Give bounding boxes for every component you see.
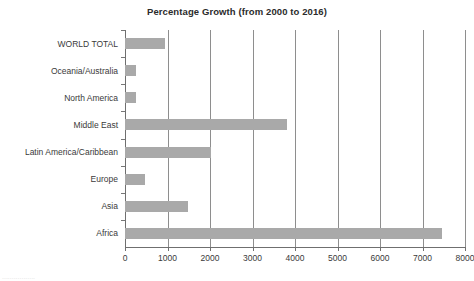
x-tick-label-2000: 2000 [201, 253, 220, 263]
bar-slot [125, 84, 465, 111]
bar-oceania-australia [125, 65, 136, 76]
chart-title: Percentage Growth (from 2000 to 2016) [0, 6, 474, 17]
gridline-8000 [465, 30, 466, 247]
x-tick-label-0: 0 [123, 253, 128, 263]
category-label-asia: Asia [101, 193, 118, 220]
plot-area [125, 30, 465, 247]
x-tick-label-3000: 3000 [243, 253, 262, 263]
bar-latin-america-caribbean [125, 147, 211, 158]
x-tick-2000 [210, 247, 211, 251]
x-tick-label-5000: 5000 [328, 253, 347, 263]
bars-layer [125, 30, 465, 247]
bar-slot [125, 57, 465, 84]
bar-slot [125, 30, 465, 57]
bar-slot [125, 166, 465, 193]
category-label-world-total: WORLD TOTAL [58, 30, 118, 57]
bar-world-total [125, 38, 165, 49]
x-tick-7000 [423, 247, 424, 251]
bar-slot [125, 139, 465, 166]
category-label-africa: Africa [96, 220, 118, 247]
x-tick-5000 [338, 247, 339, 251]
category-label-middle-east: Middle East [74, 111, 118, 138]
bar-africa [125, 228, 442, 239]
x-tick-0 [125, 247, 126, 251]
x-tick-label-4000: 4000 [286, 253, 305, 263]
bar-europe [125, 174, 145, 185]
value-axis: 010002000300040005000600070008000 [125, 247, 465, 273]
category-axis: WORLD TOTALOceania/AustraliaNorth Americ… [0, 30, 125, 247]
category-label-latin-america-caribbean: Latin America/Caribbean [25, 139, 118, 166]
x-tick-label-1000: 1000 [158, 253, 177, 263]
bar-slot [125, 111, 465, 138]
x-tick-1000 [168, 247, 169, 251]
x-tick-4000 [295, 247, 296, 251]
x-tick-label-6000: 6000 [371, 253, 390, 263]
bar-slot [125, 193, 465, 220]
bar-north-america [125, 92, 136, 103]
x-tick-8000 [465, 247, 466, 251]
x-tick-label-8000: 8000 [456, 253, 474, 263]
x-tick-6000 [380, 247, 381, 251]
x-tick-3000 [253, 247, 254, 251]
bar-asia [125, 201, 188, 212]
category-label-north-america: North America [64, 84, 118, 111]
bottom-edge-artifact: ................. [2, 273, 192, 281]
category-label-europe: Europe [91, 166, 118, 193]
bar-middle-east [125, 119, 287, 130]
x-tick-label-7000: 7000 [413, 253, 432, 263]
category-label-oceania-australia: Oceania/Australia [51, 57, 118, 84]
bar-slot [125, 220, 465, 247]
